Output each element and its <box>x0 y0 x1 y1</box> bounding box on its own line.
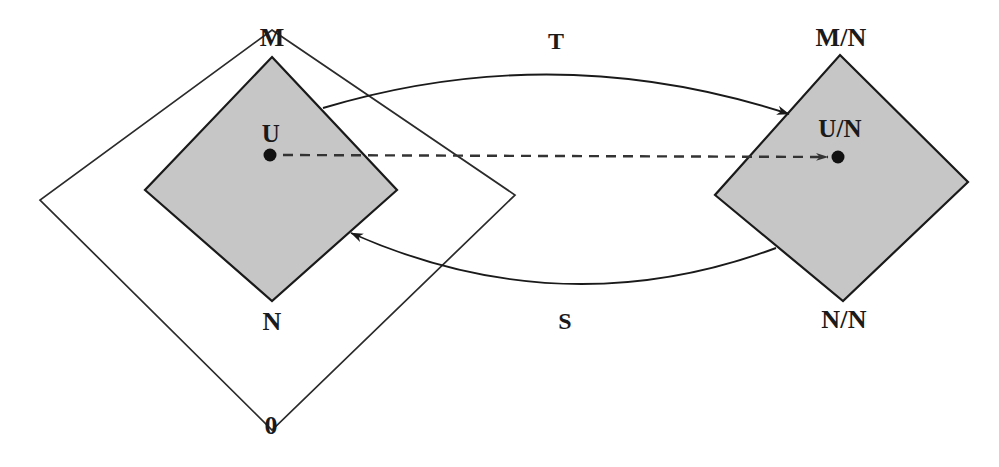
label-N-over-N: N/N <box>821 307 866 333</box>
label-arrow-S: S <box>558 309 572 333</box>
source-diamond <box>145 57 397 301</box>
label-zero: 0 <box>264 413 277 439</box>
label-U-over-N: U/N <box>818 116 862 141</box>
label-M: M <box>260 25 285 51</box>
math-diagram: M N U M/N N/N U/N 0 T S <box>0 0 999 467</box>
target-diamond <box>715 55 968 301</box>
label-M-over-N: M/N <box>815 25 866 51</box>
label-arrow-T: T <box>548 29 564 53</box>
diagram-canvas <box>0 0 999 467</box>
arrow-T <box>323 74 789 114</box>
arrow-S <box>351 233 776 284</box>
point-U-dot <box>264 149 277 162</box>
label-U: U <box>262 121 280 146</box>
point-U-over-N-dot <box>832 151 845 164</box>
label-N: N <box>263 309 282 335</box>
